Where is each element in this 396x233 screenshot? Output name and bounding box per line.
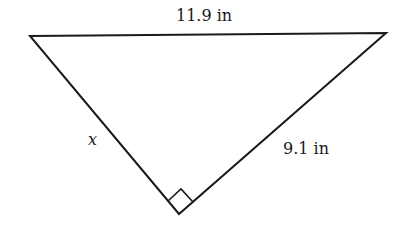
right-leg-label: 9.1 in — [283, 141, 329, 157]
hypotenuse-label: 11.9 in — [176, 8, 232, 24]
triangle-figure — [0, 0, 396, 233]
right-angle-marker — [168, 189, 193, 202]
triangle-diagram: 11.9 in x 9.1 in — [0, 0, 396, 233]
left-leg-label: x — [88, 132, 97, 148]
right-triangle — [30, 33, 386, 214]
